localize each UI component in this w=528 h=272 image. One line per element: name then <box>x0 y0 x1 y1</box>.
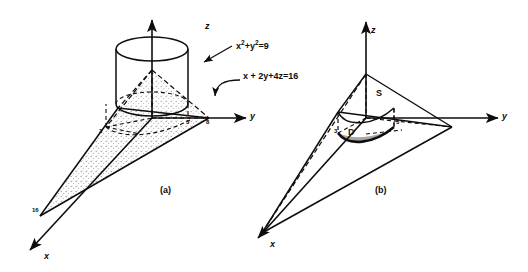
tick-y-3-a: 3 <box>186 119 189 125</box>
plane-edge-top-b <box>338 112 452 127</box>
leader-plane-eq-a <box>215 80 240 96</box>
y-axis-label-a: y <box>250 112 255 121</box>
tick-x-3-a: 3 <box>99 128 102 134</box>
plane-shading-a <box>40 70 209 216</box>
surface-label-b: S <box>376 89 382 98</box>
y-axis-label-b: y <box>502 112 507 121</box>
caption-a: (a) <box>160 186 171 195</box>
plane-edge-left-b <box>262 112 338 233</box>
domain-label-b: D <box>348 128 355 137</box>
plane-left-rib-b <box>338 74 366 112</box>
caption-b: (b) <box>375 186 387 195</box>
leader-cylinder-eq-a <box>204 46 232 62</box>
x-axis-label-b: x <box>270 240 275 249</box>
tick-y-3-b: 3 <box>396 119 399 125</box>
plane-equation-a: x + 2y+4z=16 <box>243 72 298 81</box>
plane-diag-dash-b <box>262 74 366 233</box>
tick-x-16-a: 16 <box>32 207 39 213</box>
plane-right-rib-b <box>366 74 452 127</box>
tick-x-3-b: 3 <box>334 128 337 134</box>
x-axis-a <box>30 118 152 250</box>
cylinder-equation-a: x2+y2=9 <box>236 40 269 51</box>
panel-a <box>30 20 246 250</box>
z-axis-label-a: z <box>205 22 210 31</box>
tick-y-8-a: 8 <box>206 119 209 125</box>
figure-container: z y x x2+y2=9 x + 2y+4z=16 16 8 3 3 (a) … <box>0 0 528 272</box>
z-axis-label-b: z <box>371 26 376 35</box>
x-axis-label-a: x <box>44 252 49 261</box>
panel-b <box>258 22 498 238</box>
